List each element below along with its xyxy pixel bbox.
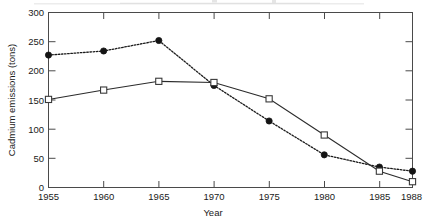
- data-point-dotted-filled-circle-series-1960: [101, 48, 107, 54]
- x-axis-title: Year: [203, 207, 222, 218]
- chart-background: [0, 0, 426, 222]
- data-point-solid-open-square-series-1988: [409, 179, 415, 185]
- data-point-solid-open-square-series-1955: [45, 96, 51, 102]
- data-point-dotted-filled-circle-series-1988: [409, 168, 415, 174]
- x-tick-label-1975: 1975: [259, 191, 280, 202]
- y-tick-label-150: 150: [28, 95, 44, 106]
- x-tick-label-1965: 1965: [148, 191, 169, 202]
- x-tick-label-1960: 1960: [93, 191, 114, 202]
- y-tick-label-300: 300: [28, 7, 44, 18]
- y-tick-label-50: 50: [33, 153, 44, 164]
- cadmium-emissions-line-chart: 300 250 200 150 100 50 0 1955 1960 1965 …: [0, 0, 426, 222]
- data-point-solid-open-square-series-1960: [101, 87, 107, 93]
- data-point-solid-open-square-series-1980: [321, 132, 327, 138]
- data-point-solid-open-square-series-1985: [376, 168, 382, 174]
- x-tick-label-1988: 1988: [401, 191, 422, 202]
- data-point-dotted-filled-circle-series-1955: [45, 52, 51, 58]
- y-tick-label-250: 250: [28, 36, 44, 47]
- data-point-solid-open-square-series-1965: [156, 78, 162, 84]
- chart-figure: 300 250 200 150 100 50 0 1955 1960 1965 …: [0, 0, 426, 222]
- data-point-dotted-filled-circle-series-1975: [266, 118, 272, 124]
- y-tick-label-100: 100: [28, 124, 44, 135]
- x-tick-label-1970: 1970: [204, 191, 225, 202]
- x-tick-label-1985: 1985: [369, 191, 390, 202]
- data-point-solid-open-square-series-1975: [266, 96, 272, 102]
- data-point-solid-open-square-series-1970: [211, 79, 217, 85]
- data-point-dotted-filled-circle-series-1965: [156, 37, 162, 43]
- y-tick-label-200: 200: [28, 65, 44, 76]
- x-tick-label-1955: 1955: [38, 191, 59, 202]
- x-tick-label-1980: 1980: [314, 191, 335, 202]
- y-axis-title: Cadmium emissions (tons): [6, 44, 17, 156]
- data-point-dotted-filled-circle-series-1980: [321, 152, 327, 158]
